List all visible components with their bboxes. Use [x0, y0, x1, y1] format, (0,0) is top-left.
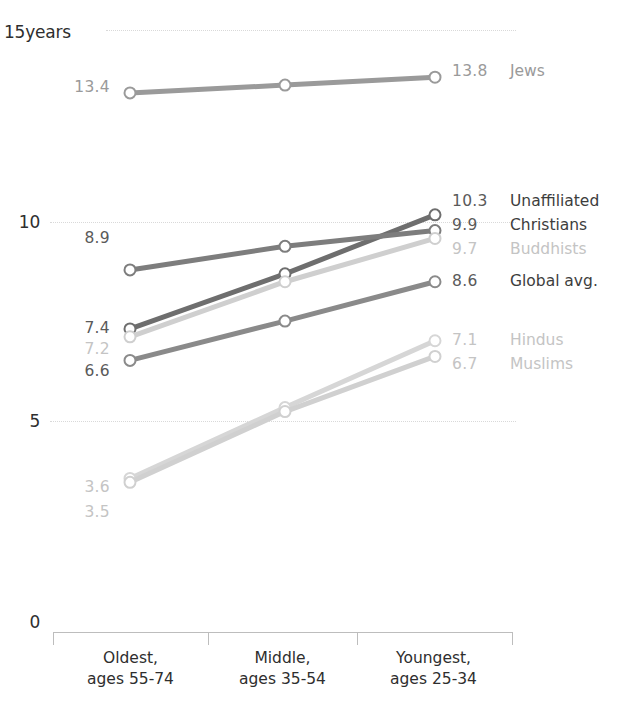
data-point-marker [430, 276, 441, 287]
data-point-marker [280, 268, 291, 279]
series-name-muslims: Muslims [510, 355, 573, 373]
series-name-globalavg: Global avg. [510, 272, 598, 290]
series-line [130, 77, 435, 93]
value-label-unaffiliated-end: 10.3 [452, 192, 488, 210]
series-unaffiliated [125, 209, 441, 334]
series-name-unaffiliated: Unaffiliated [510, 192, 599, 210]
value-label-christians-start: 8.9 [10, 229, 110, 247]
data-point-marker [430, 72, 441, 83]
x-axis-label-youngest-line1: Youngest, [356, 648, 511, 669]
series-line [130, 215, 435, 329]
series-name-jews: Jews [510, 62, 545, 80]
x-axis-divider-2 [357, 632, 358, 645]
value-label-muslims-start: 3.5 [10, 503, 110, 521]
data-point-marker [280, 80, 291, 91]
data-point-marker [430, 233, 441, 244]
x-axis-label-oldest: Oldest, ages 55-74 [53, 648, 208, 690]
data-point-marker [430, 209, 441, 220]
data-point-marker [125, 477, 136, 488]
y-axis-tick-0: 0 [0, 612, 40, 632]
series-line [130, 341, 435, 479]
value-label-globalavg-start: 6.6 [10, 362, 110, 380]
series-christians [125, 225, 441, 275]
series-hindus [125, 335, 441, 484]
value-label-christians-end: 9.9 [452, 216, 478, 234]
value-label-buddhists-end: 9.7 [452, 240, 478, 258]
x-axis-label-middle: Middle, ages 35-54 [205, 648, 360, 690]
data-point-marker [280, 241, 291, 252]
x-axis-label-middle-line2: ages 35-54 [205, 669, 360, 690]
x-axis-label-youngest: Youngest, ages 25-34 [356, 648, 511, 690]
x-axis-label-youngest-line2: ages 25-34 [356, 669, 511, 690]
series-line [130, 282, 435, 361]
x-axis-divider-1 [208, 632, 209, 645]
value-label-unaffiliated-start: 7.4 [10, 319, 110, 337]
series-line [130, 231, 435, 270]
data-point-marker [280, 316, 291, 327]
series-buddhists [125, 233, 441, 342]
y-axis-tick-5: 5 [0, 411, 40, 431]
series-line [130, 356, 435, 482]
data-point-marker [125, 87, 136, 98]
value-label-jews-start: 13.4 [10, 78, 110, 96]
gridline-5 [50, 421, 516, 422]
x-axis-label-middle-line1: Middle, [205, 648, 360, 669]
y-axis-tick-15: 15years [4, 22, 104, 42]
gridline-15 [106, 30, 516, 31]
x-axis-label-oldest-line2: ages 55-74 [53, 669, 208, 690]
value-label-muslims-end: 6.7 [452, 355, 478, 373]
data-point-marker [125, 473, 136, 484]
gridline-10 [50, 222, 516, 223]
series-line [130, 238, 435, 336]
value-label-jews-end: 13.8 [452, 62, 488, 80]
data-point-marker [125, 355, 136, 366]
value-label-globalavg-end: 8.6 [452, 272, 478, 290]
x-axis-label-oldest-line1: Oldest, [53, 648, 208, 669]
data-point-marker [430, 351, 441, 362]
data-point-marker [280, 276, 291, 287]
series-name-buddhists: Buddhists [510, 240, 587, 258]
value-label-buddhists-start: 7.2 [10, 340, 110, 358]
data-point-marker [125, 264, 136, 275]
line-chart: 15years 10 5 0 13.4 8.9 7.4 7.2 6.6 3.6 … [0, 0, 622, 702]
data-point-marker [125, 323, 136, 334]
x-axis-bracket [53, 632, 513, 645]
data-point-marker [430, 335, 441, 346]
value-label-hindus-end: 7.1 [452, 331, 478, 349]
data-point-marker [430, 225, 441, 236]
series-muslims [125, 351, 441, 488]
data-point-marker [280, 406, 291, 417]
series-name-hindus: Hindus [510, 331, 564, 349]
value-label-hindus-start: 3.6 [10, 478, 110, 496]
data-point-marker [125, 331, 136, 342]
data-point-marker [280, 402, 291, 413]
series-global-avg [125, 276, 441, 366]
series-name-christians: Christians [510, 216, 587, 234]
series-jews [125, 72, 441, 99]
